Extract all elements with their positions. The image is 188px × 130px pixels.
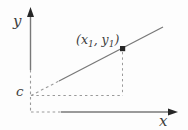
x-axis-arrowhead-icon [168, 109, 178, 116]
point-marker [120, 46, 125, 51]
slope-intercept-diagram: y x c (x1, y1) [0, 0, 188, 130]
diagram-canvas: y x c (x1, y1) [0, 0, 188, 130]
point-label-pre: (x [76, 32, 88, 47]
y-axis-label: y [12, 12, 22, 30]
point-label-mid: , y [94, 32, 110, 47]
line-dashed-extension [31, 81, 59, 96]
point-label: (x1, y1) [76, 32, 119, 49]
x-axis-label: x [159, 112, 168, 130]
y-axis-arrowhead-icon [27, 7, 34, 17]
intercept-label: c [16, 83, 24, 99]
main-line [59, 27, 163, 81]
point-label-post: ) [113, 32, 119, 47]
